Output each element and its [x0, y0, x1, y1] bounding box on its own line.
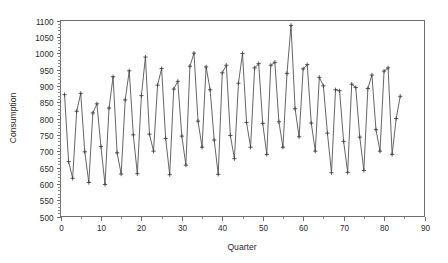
x-tick-label: 60: [299, 224, 309, 233]
data-point-marker: [155, 83, 159, 87]
data-point-marker: [248, 145, 252, 149]
data-point-marker: [127, 69, 131, 73]
consumption-series-line: [65, 25, 401, 184]
data-point-marker: [160, 66, 164, 70]
data-point-marker: [281, 145, 285, 149]
x-tick-label: 40: [218, 224, 228, 233]
data-point-marker: [99, 144, 103, 148]
data-point-marker: [164, 136, 168, 140]
y-tick-label: 650: [40, 165, 54, 174]
x-tick-label: 0: [59, 224, 64, 233]
data-point-marker: [87, 180, 91, 184]
data-point-marker: [75, 109, 79, 113]
data-point-marker: [168, 173, 172, 177]
data-point-marker: [176, 79, 180, 83]
y-tick-label: 600: [40, 181, 54, 190]
x-tick-label: 30: [178, 224, 188, 233]
data-point-marker: [265, 152, 269, 156]
data-point-marker: [366, 86, 370, 90]
data-point-marker: [139, 94, 143, 98]
data-point-marker: [289, 23, 293, 27]
data-point-marker: [390, 152, 394, 156]
data-point-marker: [71, 176, 75, 180]
data-point-marker: [172, 87, 176, 91]
data-point-marker: [135, 172, 139, 176]
y-axis-tick-labels: 5005506006507007508008509009501000105011…: [35, 18, 54, 223]
data-point-marker: [216, 172, 220, 176]
data-point-marker: [232, 157, 236, 161]
data-point-marker: [123, 98, 127, 102]
data-point-marker: [317, 75, 321, 79]
data-point-marker: [147, 132, 151, 136]
data-point-marker: [111, 75, 115, 79]
y-tick-label: 700: [40, 148, 54, 157]
data-point-marker: [261, 121, 265, 125]
data-point-marker: [321, 84, 325, 88]
data-point-marker: [66, 160, 70, 164]
x-axis-tick-labels: 0102030405060708090: [59, 224, 430, 233]
data-point-marker: [196, 119, 200, 123]
data-point-marker: [103, 182, 107, 186]
data-point-marker: [212, 138, 216, 142]
data-point-marker: [240, 51, 244, 55]
data-point-marker: [297, 135, 301, 139]
data-point-marker: [293, 107, 297, 111]
y-tick-label: 1000: [35, 50, 54, 59]
data-point-marker: [184, 163, 188, 167]
data-point-marker: [200, 145, 204, 149]
data-point-marker: [224, 63, 228, 67]
data-point-marker: [115, 151, 119, 155]
data-point-marker: [398, 94, 402, 98]
data-point-marker: [313, 149, 317, 153]
data-point-marker: [325, 131, 329, 135]
x-tick-label: 80: [380, 224, 390, 233]
y-tick-label: 850: [40, 99, 54, 108]
data-point-marker: [309, 121, 313, 125]
data-point-marker: [285, 71, 289, 75]
data-point-marker: [244, 120, 248, 124]
data-point-marker: [188, 64, 192, 68]
data-point-marker: [346, 170, 350, 174]
data-point-marker: [204, 65, 208, 69]
x-tick-label: 20: [137, 224, 147, 233]
consumption-series-markers: [62, 23, 402, 186]
data-point-marker: [370, 73, 374, 77]
data-point-marker: [362, 168, 366, 172]
data-point-marker: [107, 106, 111, 110]
data-point-marker: [180, 134, 184, 138]
data-point-marker: [119, 172, 123, 176]
data-point-marker: [378, 149, 382, 153]
y-tick-label: 900: [40, 83, 54, 92]
data-point-marker: [192, 51, 196, 55]
y-tick-label: 1050: [35, 34, 54, 43]
y-axis-title: Consumption: [8, 92, 18, 143]
data-point-marker: [62, 93, 66, 97]
data-point-marker: [277, 120, 281, 124]
y-tick-label: 950: [40, 67, 54, 76]
data-point-marker: [83, 150, 87, 154]
data-point-marker: [95, 102, 99, 106]
y-tick-label: 750: [40, 132, 54, 141]
data-point-marker: [358, 135, 362, 139]
y-tick-label: 800: [40, 116, 54, 125]
x-tick-label: 90: [421, 224, 431, 233]
x-axis-title: Quarter: [227, 242, 256, 252]
y-tick-label: 550: [40, 197, 54, 206]
x-tick-label: 50: [259, 224, 269, 233]
data-point-marker: [208, 88, 212, 92]
data-point-marker: [236, 81, 240, 85]
chart-figure: 5005506006507007508008509009501000105011…: [0, 0, 448, 263]
consumption-line-chart: 5005506006507007508008509009501000105011…: [0, 0, 448, 263]
data-point-marker: [333, 88, 337, 92]
data-point-marker: [337, 89, 341, 93]
data-point-marker: [342, 139, 346, 143]
data-point-marker: [151, 149, 155, 153]
data-point-marker: [329, 171, 333, 175]
x-tick-label: 70: [340, 224, 350, 233]
data-point-marker: [394, 116, 398, 120]
data-point-marker: [79, 91, 83, 95]
data-point-marker: [91, 111, 95, 115]
y-tick-label: 500: [40, 214, 54, 223]
data-point-marker: [374, 128, 378, 132]
data-point-marker: [143, 55, 147, 59]
